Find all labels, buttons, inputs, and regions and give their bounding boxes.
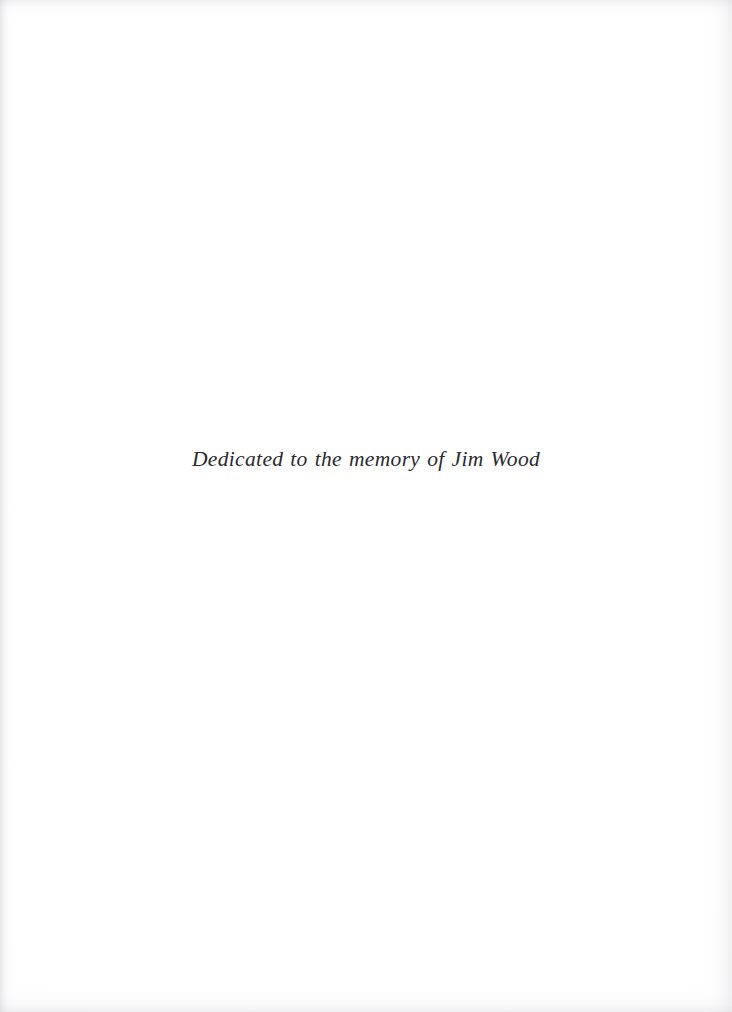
dedication-page: Dedicated to the memory of Jim Wood <box>0 0 732 1012</box>
paper-surface <box>0 0 732 1012</box>
scan-edge-shadow-bottom <box>0 990 732 1012</box>
scan-edge-shadow-top <box>0 0 732 16</box>
dedication-text: Dedicated to the memory of Jim Wood <box>192 446 540 472</box>
scan-edge-shadow-left <box>0 0 14 1012</box>
dedication-block: Dedicated to the memory of Jim Wood <box>0 446 732 472</box>
scan-edge-shadow-right <box>702 0 732 1012</box>
